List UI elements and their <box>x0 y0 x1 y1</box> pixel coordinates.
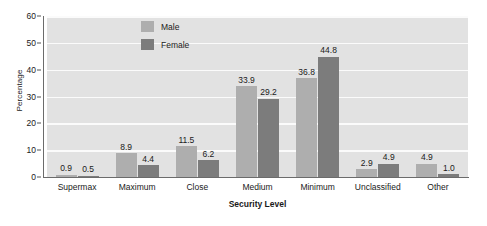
bar-group: 0.90.5 <box>56 16 99 177</box>
x-tick-label-medium: Medium <box>242 182 272 192</box>
plot-area: 0.90.58.94.411.56.233.929.236.844.82.94.… <box>47 16 468 177</box>
bar-value-label: 4.9 <box>412 153 441 162</box>
legend-label-female: Female <box>161 40 189 50</box>
bar-value-label: 1.0 <box>434 164 463 173</box>
y-tick-label: 40 <box>27 65 36 75</box>
bar-value-label: 36.8 <box>292 68 321 77</box>
x-tick-label-other: Other <box>427 182 448 192</box>
bar-value-label: 4.4 <box>134 155 163 164</box>
bar-chart-figure: Percentage 0102030405060 0.90.58.94.411.… <box>0 0 487 226</box>
y-axis-tick-labels: 0102030405060 <box>0 0 44 226</box>
bar-female-close[interactable] <box>198 160 219 177</box>
bar-value-label: 44.8 <box>314 46 343 55</box>
bar-value-label: 0.5 <box>74 165 103 174</box>
y-tick-mark <box>37 16 41 17</box>
y-tick-mark <box>37 96 41 97</box>
y-tick-label: 20 <box>27 118 36 128</box>
bar-value-label: 33.9 <box>232 76 261 85</box>
x-axis-tick-labels: SupermaxMaximumCloseMediumMinimumUnclass… <box>47 182 468 196</box>
x-tick-label-minimum: Minimum <box>300 182 334 192</box>
x-axis-title: Security Level <box>47 199 468 209</box>
bar-male-minimum[interactable] <box>296 78 317 177</box>
bar-male-medium[interactable] <box>236 86 257 177</box>
y-tick-mark <box>37 69 41 70</box>
bar-value-label: 6.2 <box>194 150 223 159</box>
bar-group: 4.91.0 <box>416 16 459 177</box>
legend-item-female: Female <box>141 37 189 52</box>
x-tick-label-unclassified: Unclassified <box>355 182 401 192</box>
y-tick-mark <box>37 177 41 178</box>
x-tick-label-close: Close <box>186 182 208 192</box>
bar-value-label: 29.2 <box>254 88 283 97</box>
legend-label-male: Male <box>161 22 179 32</box>
y-tick-mark <box>37 123 41 124</box>
y-tick-label: 30 <box>27 92 36 102</box>
y-tick-label: 60 <box>27 11 36 21</box>
bar-value-label: 11.5 <box>172 136 201 145</box>
x-tick-label-supermax: Supermax <box>58 182 97 192</box>
bar-value-label: 8.9 <box>112 143 141 152</box>
chart-legend: Male Female <box>141 19 189 55</box>
bar-female-supermax[interactable] <box>78 176 99 178</box>
bar-female-medium[interactable] <box>258 99 279 177</box>
y-tick-label: 50 <box>27 38 36 48</box>
y-tick-label: 0 <box>31 172 36 182</box>
y-tick-mark <box>37 42 41 43</box>
bar-female-other[interactable] <box>438 174 459 177</box>
x-axis-line <box>43 177 469 178</box>
x-tick-label-maximum: Maximum <box>119 182 156 192</box>
legend-item-male: Male <box>141 19 189 34</box>
legend-swatch-female <box>141 39 154 50</box>
y-tick-label: 10 <box>27 145 36 155</box>
bar-male-supermax[interactable] <box>56 175 77 177</box>
bar-group: 33.929.2 <box>236 16 279 177</box>
y-tick-mark <box>37 150 41 151</box>
bar-female-unclassified[interactable] <box>378 164 399 177</box>
bar-group: 2.94.9 <box>356 16 399 177</box>
bar-female-maximum[interactable] <box>138 165 159 177</box>
bar-female-minimum[interactable] <box>318 57 339 177</box>
bar-group: 36.844.8 <box>296 16 339 177</box>
legend-swatch-male <box>141 21 154 32</box>
bar-value-label: 4.9 <box>374 153 403 162</box>
y-axis-line <box>43 16 44 177</box>
bar-male-unclassified[interactable] <box>356 169 377 177</box>
bars-layer: 0.90.58.94.411.56.233.929.236.844.82.94.… <box>47 16 468 177</box>
